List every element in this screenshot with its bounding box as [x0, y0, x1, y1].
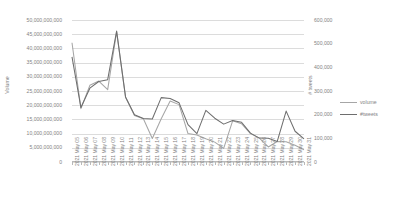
x-tick-label: 2021 May 18 — [190, 137, 196, 166]
x-tick-label: 2021 May 29 — [288, 137, 294, 166]
x-tick-mark — [188, 162, 189, 165]
x-tick-mark — [170, 162, 171, 165]
x-tick-mark — [90, 162, 91, 165]
x-tick-label: 2021 May 05 — [74, 137, 80, 166]
x-tick-mark — [134, 162, 135, 165]
x-tick-mark — [179, 162, 180, 165]
x-tick-mark — [286, 162, 287, 165]
x-tick-label: 2021 May 07 — [92, 137, 98, 166]
legend-label: #tweets — [360, 111, 378, 117]
x-tick-label: 2021 May 30 — [297, 137, 303, 166]
y-tick-label-left: 10,000,000,000 — [27, 130, 62, 137]
legend-swatch-icon — [340, 102, 357, 103]
series-line-volume — [72, 32, 304, 150]
x-tick-label: 2021 May 25 — [253, 137, 259, 166]
y-tick-label-right: 100,000 — [314, 135, 332, 142]
x-tick-label: 2021 May 26 — [261, 137, 267, 166]
x-tick-mark — [233, 162, 234, 165]
x-tick-mark — [99, 162, 100, 165]
y-tick-label-left: 0 — [59, 159, 62, 166]
y-tick-label-right: 300,000 — [314, 88, 332, 95]
x-axis-ticks: 2021 May 052021 May 062021 May 072021 Ma… — [72, 162, 304, 219]
y-tick-label-left: 40,000,000,000 — [27, 45, 62, 52]
x-tick-label: 2021 May 11 — [128, 137, 134, 166]
x-tick-mark — [304, 162, 305, 165]
chart-legend: volume#tweets — [340, 96, 406, 120]
legend-item[interactable]: volume — [340, 96, 406, 108]
x-tick-label: 2021 May 17 — [181, 137, 187, 166]
x-tick-label: 2021 May 12 — [137, 137, 143, 166]
y-tick-label-right: 500,000 — [314, 40, 332, 47]
legend-item[interactable]: #tweets — [340, 108, 406, 120]
x-tick-label: 2021 May 28 — [279, 137, 285, 166]
x-tick-mark — [250, 162, 251, 165]
y-tick-label-left: 20,000,000,000 — [27, 102, 62, 109]
y-tick-label-left: 25,000,000,000 — [27, 88, 62, 95]
y-tick-label-right: 400,000 — [314, 64, 332, 71]
x-tick-label: 2021 May 22 — [226, 137, 232, 166]
x-tick-mark — [215, 162, 216, 165]
x-tick-mark — [197, 162, 198, 165]
y-tick-label-left: 15,000,000,000 — [27, 116, 62, 123]
y-tick-label-left: 35,000,000,000 — [27, 59, 62, 66]
x-tick-label: 2021 May 23 — [235, 137, 241, 166]
x-tick-label: 2021 May 15 — [163, 137, 169, 166]
x-tick-label: 2021 May 16 — [172, 137, 178, 166]
x-tick-label: 2021 May 20 — [208, 137, 214, 166]
x-tick-label: 2021 May 31 — [306, 137, 312, 166]
x-tick-mark — [72, 162, 73, 165]
y-tick-label-right: 200,000 — [314, 111, 332, 118]
x-tick-label: 2021 May 09 — [110, 137, 116, 166]
x-tick-label: 2021 May 10 — [119, 137, 125, 166]
x-tick-mark — [108, 162, 109, 165]
x-tick-mark — [295, 162, 296, 165]
x-tick-label: 2021 May 13 — [145, 137, 151, 166]
x-tick-label: 2021 May 14 — [154, 137, 160, 166]
x-tick-label: 2021 May 08 — [101, 137, 107, 166]
x-tick-label: 2021 May 19 — [199, 137, 205, 166]
y-tick-label-right: 0 — [314, 159, 317, 166]
x-tick-mark — [242, 162, 243, 165]
y-tick-label-left: 50,000,000,000 — [27, 17, 62, 24]
legend-label: volume — [360, 99, 377, 105]
x-tick-label: 2021 May 24 — [244, 137, 250, 166]
y-tick-label-left: 30,000,000,000 — [27, 73, 62, 80]
chart-container: Volume # tweets 50,000,000,00045,000,000… — [0, 0, 408, 219]
y-tick-label-right: 600,000 — [314, 17, 332, 24]
x-tick-mark — [117, 162, 118, 165]
x-tick-mark — [81, 162, 82, 165]
y-tick-label-left: 45,000,000,000 — [27, 31, 62, 38]
x-tick-label: 2021 May 27 — [270, 137, 276, 166]
y-axis-title-right: # tweets — [307, 65, 313, 105]
series-line-tweets — [72, 31, 304, 141]
x-tick-mark — [126, 162, 127, 165]
y-axis-title-left: Volume — [4, 65, 10, 105]
x-tick-mark — [224, 162, 225, 165]
legend-swatch-icon — [340, 114, 357, 115]
x-tick-mark — [206, 162, 207, 165]
x-tick-label: 2021 May 21 — [217, 137, 223, 166]
x-tick-label: 2021 May 06 — [83, 137, 89, 166]
y-tick-label-left: 5,000,000,000 — [29, 144, 62, 151]
